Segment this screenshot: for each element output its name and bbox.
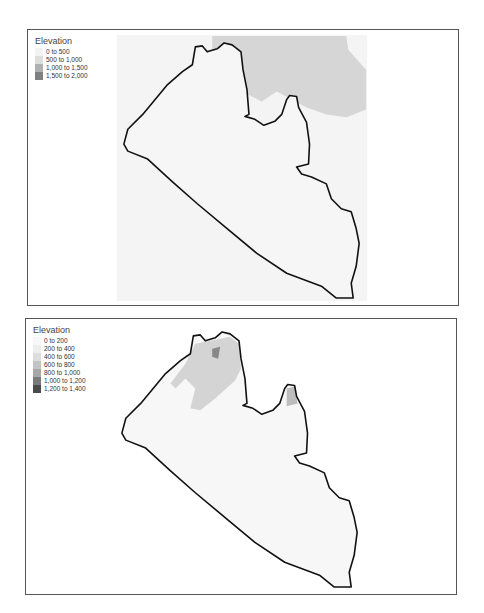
legend-item: 1,200 to 1,400 (33, 385, 86, 393)
legend-title: Elevation (35, 36, 88, 46)
legend-item: 0 to 200 (33, 337, 86, 345)
legend-swatch (33, 369, 41, 377)
legend-label: 800 to 1,000 (44, 369, 80, 377)
legend-swatch (33, 385, 41, 393)
legend-item: 400 to 600 (33, 353, 86, 361)
legend-label: 200 to 400 (44, 345, 75, 353)
legend-item: 500 to 1,000 (35, 56, 88, 64)
map-canvas-bottom (26, 319, 456, 594)
legend-item: 1,000 to 1,500 (35, 64, 88, 72)
legend-item: 1,000 to 1,200 (33, 377, 86, 385)
legend-item: 200 to 400 (33, 345, 86, 353)
legend-swatch (33, 353, 41, 361)
elevation-map-bottom: Elevation 0 to 200 200 to 400 400 to 600… (25, 318, 457, 595)
legend-item: 600 to 800 (33, 361, 86, 369)
legend-swatch (33, 337, 41, 345)
legend-swatch (35, 56, 43, 64)
map-canvas-top (28, 30, 458, 305)
elevation-map-top: Elevation 0 to 500 500 to 1,000 1,000 to… (27, 29, 459, 306)
legend-label: 1,200 to 1,400 (44, 385, 86, 393)
legend-item: 1,500 to 2,000 (35, 72, 88, 80)
legend-swatch (35, 48, 43, 56)
legend-label: 0 to 200 (44, 337, 68, 345)
legend-swatch (33, 361, 41, 369)
legend-label: 1,500 to 2,000 (46, 72, 88, 80)
legend-swatch (33, 377, 41, 385)
legend-item: 800 to 1,000 (33, 369, 86, 377)
legend-item: 0 to 500 (35, 48, 88, 56)
legend-label: 600 to 800 (44, 361, 75, 369)
legend-bottom: Elevation 0 to 200 200 to 400 400 to 600… (33, 325, 86, 393)
legend-label: 1,000 to 1,500 (46, 64, 88, 72)
legend-label: 500 to 1,000 (46, 56, 82, 64)
legend-label: 1,000 to 1,200 (44, 377, 86, 385)
legend-title: Elevation (33, 325, 86, 335)
legend-label: 0 to 500 (46, 48, 70, 56)
legend-swatch (33, 345, 41, 353)
legend-swatch (35, 72, 43, 80)
legend-top: Elevation 0 to 500 500 to 1,000 1,000 to… (35, 36, 88, 80)
legend-swatch (35, 64, 43, 72)
legend-label: 400 to 600 (44, 353, 75, 361)
